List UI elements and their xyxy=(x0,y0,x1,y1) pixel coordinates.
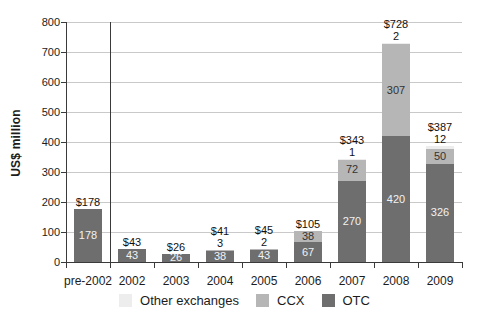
legend-item-other-exchanges: Other exchanges xyxy=(119,293,239,308)
y-tick-label: 500 xyxy=(22,106,60,119)
y-axis-tick xyxy=(61,232,66,233)
y-axis-tick xyxy=(61,172,66,173)
x-axis-tick xyxy=(66,263,67,268)
x-axis-tick xyxy=(198,263,199,268)
bar-total-label: $105 xyxy=(278,218,338,230)
x-axis-tick xyxy=(418,263,419,268)
bar-value-label: 178 xyxy=(74,209,102,262)
y-axis-tick xyxy=(61,82,66,83)
bar-value-label: 307 xyxy=(382,44,410,136)
y-axis-tick xyxy=(61,52,66,53)
legend-label: CCX xyxy=(277,293,304,308)
y-axis-tick xyxy=(61,22,66,23)
bar-value-label: 43 xyxy=(118,249,146,262)
y-tick-label: 200 xyxy=(22,196,60,209)
legend-item-ccx: CCX xyxy=(256,293,304,308)
stacked-bar-chart: US$ million 0100200300400500600700800178… xyxy=(0,0,489,331)
bar-value-label: 50 xyxy=(426,149,454,164)
legend-label: Other exchanges xyxy=(140,293,239,308)
y-tick-label: 300 xyxy=(22,166,60,179)
x-axis-tick xyxy=(286,263,287,268)
y-axis-line xyxy=(66,22,67,263)
legend-swatch-ccx xyxy=(256,294,269,307)
period-separator-line xyxy=(110,22,111,262)
y-tick-label: 600 xyxy=(22,76,60,89)
y-tick-label: 0 xyxy=(22,256,60,269)
bar-value-label: 420 xyxy=(382,136,410,262)
bar-value-label: 38 xyxy=(294,231,322,242)
x-axis-tick xyxy=(462,263,463,268)
bar-value-label: 2 xyxy=(234,236,294,248)
y-tick-label: 700 xyxy=(22,46,60,59)
y-tick-label: 400 xyxy=(22,136,60,149)
legend-swatch-other-exchanges xyxy=(119,294,132,307)
bar-value-label: 326 xyxy=(426,164,454,262)
legend-label: OTC xyxy=(343,293,370,308)
bar-value-label: 26 xyxy=(162,254,190,262)
bar-total-label: $728 xyxy=(366,18,426,30)
y-tick-label: 100 xyxy=(22,226,60,239)
bar-value-label: 1 xyxy=(322,146,382,158)
bar-segment-ccx xyxy=(206,250,234,251)
y-tick-label: 800 xyxy=(22,16,60,29)
legend-item-otc: OTC xyxy=(322,293,370,308)
x-axis-tick xyxy=(242,263,243,268)
bar-total-label: $178 xyxy=(58,196,118,208)
x-axis-tick xyxy=(154,263,155,268)
legend-swatch-otc xyxy=(322,294,335,307)
bar-value-label: 72 xyxy=(338,159,366,181)
bar-segment-other-exchanges xyxy=(382,43,410,44)
y-axis-tick xyxy=(61,112,66,113)
bar-value-label: 43 xyxy=(250,249,278,262)
bar-value-label: 270 xyxy=(338,181,366,262)
y-axis-tick xyxy=(61,142,66,143)
x-axis-tick xyxy=(374,263,375,268)
bar-segment-other-exchanges xyxy=(426,146,454,150)
x-axis-tick xyxy=(110,263,111,268)
x-axis-tick xyxy=(330,263,331,268)
y-axis-title: US$ million xyxy=(9,93,23,193)
bar-value-label: 2 xyxy=(366,30,426,42)
legend: Other exchangesCCXOTC xyxy=(0,293,489,308)
x-axis-line xyxy=(66,262,463,263)
bar-value-label: 12 xyxy=(410,133,470,145)
bar-segment-ccx xyxy=(250,249,278,250)
bar-total-label: $343 xyxy=(322,134,382,146)
x-tick-label: 2009 xyxy=(410,274,470,288)
bar-value-label: 67 xyxy=(294,242,322,262)
bar-total-label: $387 xyxy=(410,121,470,133)
bar-value-label: 38 xyxy=(206,251,234,262)
